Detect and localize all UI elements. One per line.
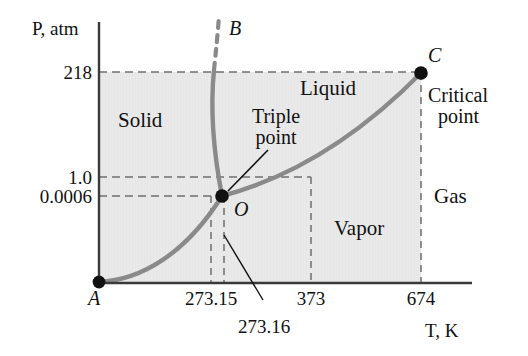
critical-point-callout-line2: point	[428, 106, 524, 127]
y-tick-0-0006: 0.0006	[6, 187, 92, 206]
point-c-dot	[414, 66, 428, 80]
point-label-a-text: A	[88, 287, 100, 309]
region-label-solid-text: Solid	[118, 108, 162, 132]
point-label-o-text: O	[234, 198, 248, 220]
y-tick-218-text: 218	[64, 62, 93, 83]
region-label-liquid: Liquid	[300, 78, 356, 99]
x-tick-273-15-text: 273.15	[185, 288, 237, 309]
region-label-vapor-text: Vapor	[334, 216, 384, 240]
region-label-gas: Gas	[434, 186, 467, 207]
x-tick-674-text: 674	[407, 288, 436, 309]
y-tick-218: 218	[26, 63, 92, 82]
y-tick-1-0: 1.0	[26, 168, 92, 187]
x-axis-title-text: T, K	[425, 320, 458, 341]
point-o-dot	[215, 189, 229, 203]
region-label-liquid-text: Liquid	[300, 76, 356, 100]
y-axis-title-text: P, atm	[32, 18, 78, 39]
y-tick-0-0006-text: 0.0006	[40, 186, 92, 207]
triple-point-callout-line2: point	[230, 127, 322, 148]
region-label-gas-text: Gas	[434, 184, 467, 208]
y-tick-1-0-text: 1.0	[68, 167, 92, 188]
x-tick-373-text: 373	[297, 288, 326, 309]
point-label-c: C	[428, 45, 441, 65]
x-tick-373: 373	[281, 289, 341, 308]
phase-diagram-figure: P, atm T, K 218 1.0 0.0006 273.15 373 67…	[0, 0, 528, 356]
x-tick-273-15: 273.15	[152, 289, 270, 308]
point-label-c-text: C	[428, 44, 441, 66]
x-tick-273-16-text: 273.16	[238, 316, 290, 337]
x-tick-273-16: 273.16	[205, 317, 323, 336]
triple-point-callout-line1: Triple	[230, 106, 322, 127]
critical-point-callout: Critical point	[428, 85, 524, 127]
point-label-o: O	[234, 199, 248, 219]
region-label-vapor: Vapor	[334, 218, 384, 239]
fusion-curve-dashed-continuation	[214, 15, 219, 70]
point-label-b: B	[229, 18, 241, 38]
triple-point-callout: Triple point	[230, 106, 322, 148]
critical-point-callout-line1: Critical	[428, 85, 524, 106]
x-tick-674: 674	[391, 289, 451, 308]
point-label-a: A	[88, 288, 100, 308]
region-label-solid: Solid	[118, 110, 162, 131]
point-label-b-text: B	[229, 17, 241, 39]
x-axis-title: T, K	[425, 321, 458, 340]
y-axis-title: P, atm	[32, 19, 78, 38]
